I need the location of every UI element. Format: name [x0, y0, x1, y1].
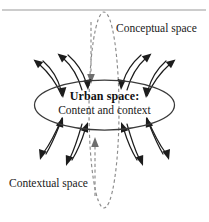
label-conceptual-space: Conceptual space [116, 22, 197, 34]
dashed-arrow-bottom-outbound [91, 137, 99, 196]
urban-space-label-group: Urban space: Content and context [0, 89, 209, 117]
dashed-arrow-top-inbound [87, 22, 95, 84]
urban-space-subtitle: Content and context [0, 103, 209, 117]
diagram-figure: Conceptual space Contextual space Urban … [0, 0, 209, 222]
lower-inward-arrows [46, 117, 163, 160]
label-contextual-space: Contextual space [9, 177, 88, 189]
urban-space-title: Urban space: [0, 89, 209, 103]
